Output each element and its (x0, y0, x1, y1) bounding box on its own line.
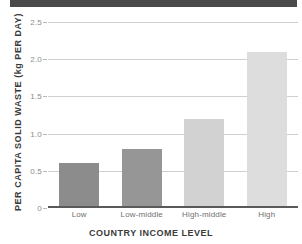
y-tick-mark (43, 171, 47, 172)
bar-group: High-middle (173, 22, 236, 206)
chart-figure: PER CAPITA SOLID WASTE (kg PER DAY) 00.5… (0, 0, 302, 244)
bar-series: LowLow-middleHigh-middleHigh (48, 22, 298, 206)
x-tick-label: High (236, 210, 299, 219)
x-axis-line (48, 206, 298, 208)
y-tick-mark (43, 59, 47, 60)
y-tick-mark (43, 134, 47, 135)
y-tick-label: 2.5 (30, 18, 42, 27)
bar-group: Low-middle (111, 22, 174, 206)
y-axis-title: PER CAPITA SOLID WASTE (kg PER DAY) (13, 15, 23, 211)
y-tick-label: 0.5 (30, 166, 42, 175)
x-axis-title: COUNTRY INCOME LEVEL (0, 228, 302, 238)
bar-group: High (236, 22, 299, 206)
y-tick-label: 1.0 (30, 129, 42, 138)
y-tick-mark (43, 96, 47, 97)
x-tick-label: Low (48, 210, 111, 219)
x-tick-label: Low-middle (111, 210, 174, 219)
y-tick-mark (43, 22, 47, 23)
y-tick-mark (43, 208, 47, 209)
bar-group: Low (48, 22, 111, 206)
bar (122, 149, 162, 206)
y-tick-label: 1.5 (30, 92, 42, 101)
y-tick-label: 0 (37, 204, 42, 213)
header-band (10, 0, 297, 7)
bar (184, 119, 224, 206)
plot-area: 00.51.01.52.02.5 LowLow-middleHigh-middl… (48, 22, 298, 208)
x-tick-label: High-middle (173, 210, 236, 219)
bar (59, 163, 99, 206)
y-tick-label: 2.0 (30, 55, 42, 64)
bar (247, 52, 287, 206)
